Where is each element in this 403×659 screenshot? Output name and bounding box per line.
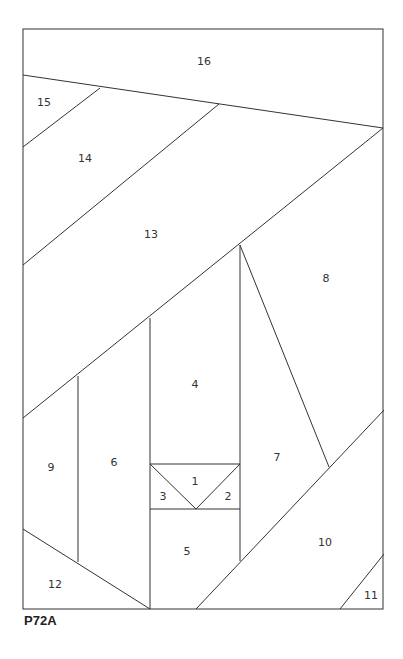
- piece-label-5: 5: [184, 545, 191, 558]
- piece-label-2: 2: [225, 490, 232, 503]
- piece-label-6: 6: [111, 456, 118, 469]
- piece-label-4: 4: [192, 378, 199, 391]
- piece-label-3: 3: [160, 490, 167, 503]
- seam-2: [196, 464, 240, 509]
- piece-label-15: 15: [37, 96, 51, 109]
- seam-12: [23, 529, 150, 609]
- piece-label-13: 13: [144, 228, 158, 241]
- piece-label-7: 7: [274, 451, 281, 464]
- piece-label-8: 8: [323, 272, 330, 285]
- seam-8: [240, 245, 329, 467]
- piece-label-16: 16: [197, 55, 211, 68]
- pattern-caption: P72A: [24, 613, 57, 628]
- piece-label-12: 12: [48, 578, 62, 591]
- outer-frame: [23, 29, 383, 609]
- piece-label-1: 1: [192, 475, 199, 488]
- piece-label-10: 10: [318, 536, 332, 549]
- piece-label-14: 14: [78, 152, 92, 165]
- seam-3: [150, 464, 196, 509]
- piece-labels: 12345678910111213141516: [37, 55, 378, 602]
- pattern-diagram: 12345678910111213141516: [0, 0, 403, 659]
- piece-label-9: 9: [48, 461, 55, 474]
- piece-label-11: 11: [364, 589, 378, 602]
- seam-16: [23, 75, 383, 128]
- seam-14: [23, 104, 219, 265]
- seam-15: [23, 88, 100, 147]
